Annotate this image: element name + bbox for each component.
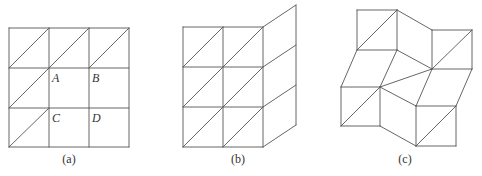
edge-line <box>183 107 223 147</box>
diagram-canvas: A B C D (a) (b) (c) <box>0 0 482 176</box>
caption-c: (c) <box>398 152 411 166</box>
point-label-b: B <box>92 71 100 85</box>
edge-line <box>263 45 296 67</box>
point-label-c: C <box>52 111 61 125</box>
edge-line <box>9 108 49 147</box>
edge-line <box>341 50 357 87</box>
figure-a <box>9 28 129 147</box>
edge-line <box>416 106 456 146</box>
edge-line <box>223 67 263 107</box>
edge-line <box>397 10 432 30</box>
figure-b <box>183 5 296 147</box>
caption-a: (a) <box>62 152 75 166</box>
figure-c <box>341 10 472 146</box>
edge-line <box>380 126 416 146</box>
caption-b: (b) <box>231 152 245 166</box>
edge-line <box>49 28 89 68</box>
edge-line <box>432 30 472 69</box>
edge-line <box>9 68 49 108</box>
edge-line <box>397 50 432 69</box>
edge-line <box>223 27 263 67</box>
edge-line <box>380 87 416 106</box>
edge-line <box>9 28 49 68</box>
point-label-d: D <box>91 111 101 125</box>
edge-line <box>380 69 432 87</box>
edge-line <box>183 67 223 107</box>
edge-line <box>380 50 397 87</box>
edge-line <box>456 69 472 106</box>
edge-line <box>183 27 223 67</box>
edge-line <box>89 28 129 68</box>
edge-line <box>263 85 296 107</box>
edge-line <box>263 125 296 147</box>
edge-line <box>416 69 432 106</box>
point-label-a: A <box>51 71 60 85</box>
edge-line <box>223 107 263 147</box>
edge-line <box>341 87 380 126</box>
edge-line <box>263 5 296 27</box>
edge-line <box>357 10 397 50</box>
